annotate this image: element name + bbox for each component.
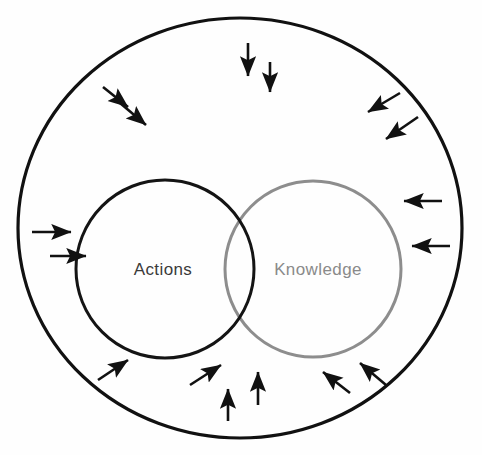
- knowledge-label: Knowledge: [274, 260, 362, 279]
- arrow-lower-right-2: [360, 363, 386, 385]
- arrow-lower-left-1: [98, 360, 128, 380]
- arrow-lower-left-2: [190, 365, 221, 385]
- actions-label: Actions: [134, 260, 193, 279]
- inward-arrow-group: [32, 43, 450, 421]
- arrow-lower-right-1: [323, 372, 350, 393]
- arrow-upper-right-2: [386, 117, 418, 139]
- venn-diagram-svg: Actions Knowledge: [0, 0, 482, 455]
- venn-diagram-canvas: Actions Knowledge: [0, 0, 482, 455]
- arrow-upper-right-1: [368, 93, 400, 112]
- arrow-upper-left-1: [103, 87, 128, 107]
- arrow-upper-left-2: [120, 103, 146, 125]
